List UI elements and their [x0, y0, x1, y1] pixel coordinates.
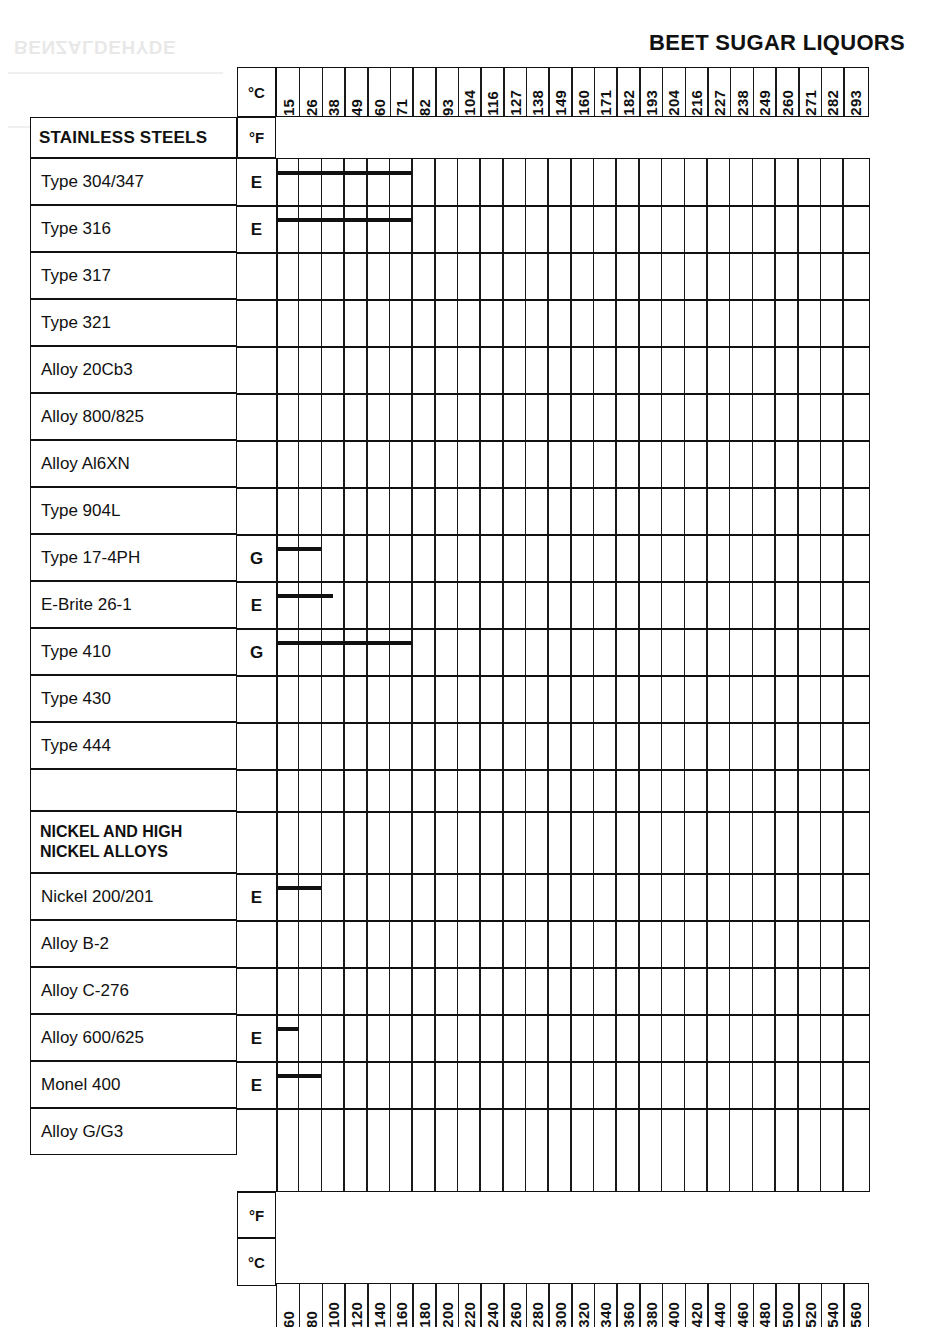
axis-tick: 271	[799, 68, 822, 116]
rating-letter: G	[237, 629, 276, 676]
axis-tick: 260	[504, 1284, 527, 1327]
rating-letter: E	[237, 1015, 276, 1062]
axis-tick: 249	[753, 68, 776, 116]
axis-tick-divider	[458, 68, 460, 116]
row-label[interactable]: Type 317	[30, 252, 237, 299]
row-label[interactable]: Alloy Al6XN	[30, 440, 237, 487]
axis-tick: 60	[277, 1284, 300, 1327]
axis-tick: 240	[481, 1284, 504, 1327]
chart-page: BENZALDEHYDE BEET SUGAR LIQUORS °C 15263…	[0, 0, 929, 1327]
axis-tick-divider	[753, 68, 755, 116]
axis-tick: 293	[844, 68, 867, 116]
row-separator	[237, 534, 869, 536]
axis-tick: 560	[844, 1284, 867, 1327]
axis-tick: 282	[821, 68, 844, 116]
axis-tick: 520	[799, 1284, 822, 1327]
row-label[interactable]: Monel 400	[30, 1061, 237, 1108]
row-separator	[237, 1014, 869, 1016]
axis-tick: 71	[390, 68, 413, 116]
axis-tick-divider	[594, 68, 596, 116]
row-label[interactable]	[30, 769, 237, 811]
range-bar	[276, 1027, 299, 1032]
row-label[interactable]: Type 304/347	[30, 158, 237, 205]
axis-tick: 193	[640, 68, 663, 116]
axis-tick: 49	[345, 68, 368, 116]
axis-tick-divider	[548, 1284, 550, 1327]
row-label[interactable]: Alloy C-276	[30, 967, 237, 1014]
axis-tick: 15	[277, 68, 300, 116]
range-bar	[276, 1074, 321, 1079]
range-bar	[276, 171, 412, 176]
axis-tick-divider	[775, 68, 777, 116]
row-label[interactable]: Type 904L	[30, 487, 237, 534]
row-label[interactable]: E-Brite 26-1	[30, 581, 237, 628]
axis-tick-divider	[458, 1284, 460, 1327]
axis-tick-divider	[412, 68, 414, 116]
axis-tick-divider	[616, 68, 618, 116]
axis-scale-fahrenheit-bottom: 6080100120140160180200220240260280300320…	[276, 1283, 869, 1327]
axis-tick-divider	[707, 68, 709, 116]
row-label[interactable]: Type 410	[30, 628, 237, 675]
axis-tick-divider	[390, 68, 392, 116]
row-separator	[237, 440, 869, 442]
axis-tick: 280	[527, 1284, 550, 1327]
row-separator	[237, 299, 869, 301]
axis-tick-divider	[662, 68, 664, 116]
bleed-through-text: BENZALDEHYDE	[14, 36, 176, 58]
row-separator	[237, 769, 869, 771]
row-label[interactable]: Type 316	[30, 205, 237, 252]
axis-tick-divider	[322, 1284, 324, 1327]
axis-tick: 160	[572, 68, 595, 116]
axis-tick: 380	[640, 1284, 663, 1327]
axis-tick-divider	[322, 68, 324, 116]
row-separator	[237, 1108, 869, 1110]
axis-tick-divider	[412, 1284, 414, 1327]
axis-tick-divider	[730, 68, 732, 116]
axis-tick-divider	[344, 1284, 346, 1327]
range-bar	[276, 218, 412, 223]
row-label[interactable]: Type 17-4PH	[30, 534, 237, 581]
range-bar	[276, 594, 333, 599]
rating-letter: G	[237, 535, 276, 582]
row-section-header[interactable]: NICKEL AND HIGH NICKEL ALLOYS	[30, 811, 237, 873]
row-separator	[237, 628, 869, 630]
axis-tick-divider	[616, 1284, 618, 1327]
axis-tick: 120	[345, 1284, 368, 1327]
axis-tick-divider	[639, 1284, 641, 1327]
axis-tick-divider	[526, 68, 528, 116]
row-label[interactable]: Type 321	[30, 299, 237, 346]
row-separator	[237, 811, 869, 813]
axis-tick-divider	[367, 1284, 369, 1327]
axis-tick: 171	[595, 68, 618, 116]
axis-tick: 480	[753, 1284, 776, 1327]
row-separator	[237, 920, 869, 922]
axis-tick: 82	[413, 68, 436, 116]
row-label[interactable]: Alloy 600/625	[30, 1014, 237, 1061]
row-separator	[237, 205, 869, 207]
row-label[interactable]: Alloy 800/825	[30, 393, 237, 440]
axis-tick: 200	[436, 1284, 459, 1327]
range-bar	[276, 641, 412, 646]
axis-tick-divider	[707, 1284, 709, 1327]
row-separator	[237, 722, 869, 724]
axis-tick-divider	[798, 1284, 800, 1327]
bleed-through-rule	[8, 72, 223, 74]
axis-tick-divider	[571, 68, 573, 116]
axis-tick: 127	[504, 68, 527, 116]
row-label[interactable]: Alloy B-2	[30, 920, 237, 967]
range-bar	[276, 886, 321, 891]
row-label[interactable]: Type 430	[30, 675, 237, 722]
axis-scale-celsius-top: 1526384960718293104116127138149160171182…	[276, 67, 869, 117]
axis-tick: 400	[663, 1284, 686, 1327]
row-label[interactable]: Alloy 20Cb3	[30, 346, 237, 393]
axis-tick: 160	[390, 1284, 413, 1327]
axis-tick-divider	[685, 1284, 687, 1327]
axis-tick-divider	[503, 68, 505, 116]
row-label[interactable]: Type 444	[30, 722, 237, 769]
axis-tick: 182	[617, 68, 640, 116]
row-label[interactable]: Alloy G/G3	[30, 1108, 237, 1155]
axis-tick-divider	[526, 1284, 528, 1327]
axis-tick-divider	[753, 1284, 755, 1327]
axis-tick: 138	[527, 68, 550, 116]
row-label[interactable]: Nickel 200/201	[30, 873, 237, 920]
